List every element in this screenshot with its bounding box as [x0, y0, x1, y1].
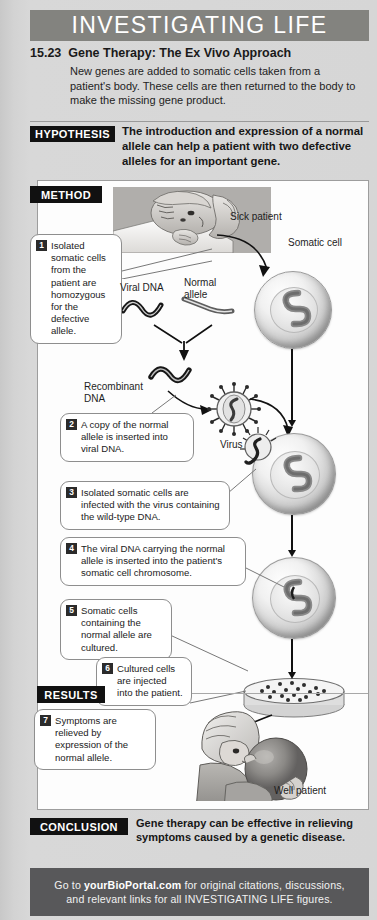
step-5-callout: 5 Somatic cells containing the normal al… [60, 599, 172, 660]
arrow-cell-down-2 [291, 515, 293, 551]
figure-description: New genes are added to somatic cells tak… [70, 64, 360, 108]
step-4-callout: 4 The viral DNA carrying the normal alle… [60, 537, 246, 586]
conclusion-text: Gene therapy can be effective in relievi… [136, 816, 368, 845]
step-4-text: The viral DNA carrying the normal allele… [81, 543, 238, 580]
well-patient-label: Well patient [274, 785, 326, 797]
footer-post: for original citations, discussions, [181, 879, 344, 891]
figure-heading: 15.23 Gene Therapy: The Ex Vivo Approach [30, 46, 369, 60]
bioportal-footer: Go to yourBioPortal.com for original cit… [30, 868, 369, 916]
sick-patient-label: Sick patient [230, 211, 282, 223]
step-6-badge: 6 [102, 663, 113, 674]
step-7-callout: 7 Symptoms are relieved by expression of… [34, 709, 156, 770]
method-label: METHOD [30, 186, 102, 203]
viral-dna-label: Viral DNA [120, 282, 164, 294]
results-label: RESULTS [37, 686, 105, 703]
step-7-badge: 7 [40, 715, 51, 726]
step-3-badge: 3 [66, 487, 77, 498]
step-7-text: Symptoms are relieved by expression of t… [55, 715, 148, 764]
step-1-callout: 1 Isolated somatic cells from the patien… [30, 234, 122, 344]
leader-step-1 [120, 243, 216, 279]
banner-title: INVESTIGATING LIFE [71, 12, 327, 39]
virus-label: Virus [220, 439, 243, 451]
step-2-text: A copy of the normal allele is inserted … [81, 419, 186, 456]
step-2-badge: 2 [66, 419, 77, 430]
step-3-text: Isolated somatic cells are infected with… [81, 487, 222, 524]
step-2-callout: 2 A copy of the normal allele is inserte… [60, 413, 194, 462]
step-6-text: Cultured cells are injected into the pat… [117, 663, 184, 700]
leader-step-3 [226, 467, 262, 501]
step-1-badge: 1 [36, 240, 47, 251]
arrow-dna-merge [148, 321, 220, 363]
step-3-callout: 3 Isolated somatic cells are infected wi… [60, 481, 230, 530]
arrow-cell-to-dish [291, 639, 293, 673]
step-5-badge: 5 [66, 605, 77, 616]
hypothesis-label: HYPOTHESIS [30, 126, 115, 142]
somatic-cell-label: Somatic cell [288, 237, 342, 249]
step-1-text: Isolated somatic cells from the patient … [51, 240, 114, 338]
bioportal-link[interactable]: yourBioPortal.com [84, 879, 181, 891]
investigating-life-banner: INVESTIGATING LIFE [30, 10, 369, 41]
step-6-callout: 6 Cultured cells are injected into the p… [96, 657, 192, 706]
virus-attached-icon [238, 425, 284, 471]
conclusion-label: CONCLUSION [30, 818, 128, 835]
arrow-patient-to-cell [213, 231, 283, 283]
footer-line-2: and relevant links for all INVESTIGATING… [66, 893, 332, 905]
step-5-text: Somatic cells containing the normal alle… [81, 605, 164, 654]
leader-step-4 [242, 565, 288, 591]
recombinant-dna-strand [148, 363, 206, 389]
header-divider [30, 121, 369, 122]
footer-pre: Go to [54, 879, 84, 891]
figure-page: INVESTIGATING LIFE 15.23 Gene Therapy: T… [0, 0, 377, 920]
footer-line-1: Go to yourBioPortal.com for original cit… [54, 879, 344, 891]
figure-number: 15.23 [30, 46, 61, 60]
recombinant-dna-label: Recombinant DNA [84, 381, 144, 405]
method-panel: Sick patient Somatic cell 1 Isolated som… [37, 180, 369, 810]
chromosome-icon [272, 287, 316, 331]
hypothesis-text: The introduction and expression of a nor… [122, 124, 367, 168]
figure-title: Gene Therapy: The Ex Vivo Approach [68, 46, 291, 60]
normal-allele-label: Normal allele [184, 277, 230, 301]
step-4-badge: 4 [66, 543, 77, 554]
arrow-cell-down-1 [291, 349, 293, 421]
